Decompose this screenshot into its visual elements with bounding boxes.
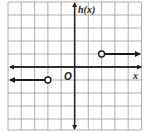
x-axis-label: x <box>132 70 138 81</box>
ray-left <box>10 77 51 83</box>
open-circle-endpoint <box>99 51 105 57</box>
open-circle-endpoint <box>45 77 51 83</box>
ray-right <box>99 51 140 57</box>
coordinate-graph: h(x) x O <box>0 0 146 133</box>
origin-label: O <box>64 71 72 82</box>
y-axis-label: h(x) <box>78 4 95 16</box>
